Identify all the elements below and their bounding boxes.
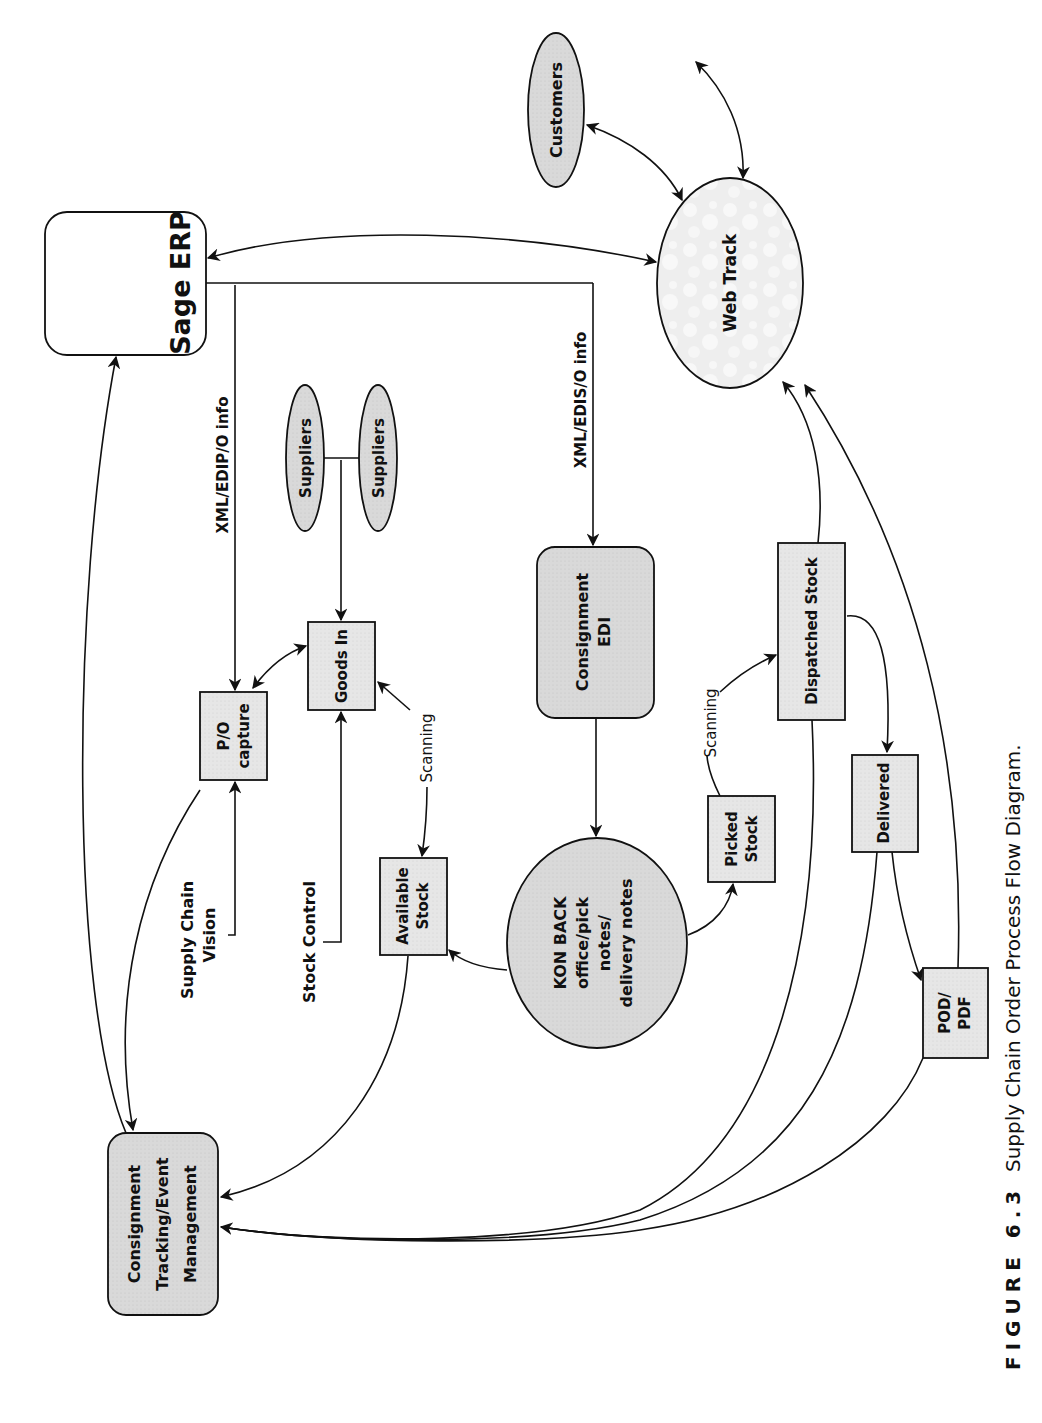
node-picked-stock[interactable]: Picked Stock	[708, 796, 775, 882]
edge-konback-available	[449, 950, 507, 970]
node-web-track[interactable]: Web Track	[657, 178, 803, 388]
edge-webtrack-external	[696, 62, 743, 178]
node-stock-control: Stock Control	[300, 881, 319, 1003]
figure-number: FIGURE 6.3	[1001, 1185, 1025, 1370]
node-suppliers-1[interactable]: Suppliers	[286, 385, 324, 531]
edge-scanning-dispatched	[720, 655, 776, 692]
suppliers-2-label: Suppliers	[370, 418, 388, 498]
edge-label-xml-edis: XML/EDIS/O info	[572, 332, 590, 469]
picked-stock-label-2: Stock	[743, 814, 761, 862]
edge-label-scanning-1: Scanning	[418, 713, 436, 782]
goods-in-label: Goods In	[333, 629, 351, 703]
node-delivered[interactable]: Delivered	[852, 755, 918, 852]
node-kon-back[interactable]: KON BACK office/pick notes/ delivery not…	[507, 838, 687, 1048]
kon-back-label-2: office/pick	[573, 897, 592, 989]
edge-label-scanning-2: Scanning	[702, 688, 720, 757]
web-track-label: Web Track	[720, 233, 740, 332]
dispatched-stock-label: Dispatched Stock	[803, 556, 821, 704]
edge-dispatched-delivered	[847, 616, 888, 752]
node-po-capture[interactable]: P/O capture	[200, 692, 267, 780]
edge-vision-po	[228, 782, 235, 935]
edge-customers-webtrack	[587, 125, 682, 200]
consignment-tracking-label-1: Consignment	[125, 1164, 144, 1283]
supply-chain-vision-label-1: Supply Chain	[178, 881, 197, 999]
figure-title: Supply Chain Order Process Flow Diagram.	[1001, 744, 1025, 1172]
picked-stock-label-1: Picked	[723, 811, 741, 867]
suppliers-1-label: Suppliers	[297, 418, 315, 498]
node-consignment-edi[interactable]: Consignment EDI	[537, 547, 654, 718]
kon-back-label-3: notes/	[595, 915, 614, 971]
consignment-edi-label-1: Consignment	[573, 572, 592, 691]
supply-chain-flow-diagram: Sage ERP Web Track Customers Suppliers S…	[0, 0, 1042, 1423]
node-sage-erp[interactable]: Sage ERP	[45, 211, 206, 355]
edge-label-xml-edip: XML/EDIP/O info	[214, 397, 232, 534]
edge-stockcontrol-goodsin	[323, 712, 341, 942]
available-stock-label-2: Stock	[414, 881, 432, 929]
node-suppliers-2[interactable]: Suppliers	[359, 385, 397, 531]
supply-chain-vision-label-2: Vision	[200, 908, 219, 963]
node-consignment-tracking[interactable]: Consignment Tracking/Event Management	[108, 1133, 218, 1315]
sage-erp-label: Sage ERP	[165, 211, 196, 355]
stock-control-label: Stock Control	[300, 881, 319, 1003]
kon-back-label-1: KON BACK	[551, 896, 570, 990]
node-customers[interactable]: Customers	[528, 33, 584, 187]
edge-picked-scanning	[707, 756, 720, 796]
edge-dispatched-webtrack	[783, 382, 820, 543]
edge-konback-picked	[688, 884, 733, 935]
node-goods-in[interactable]: Goods In	[308, 622, 375, 710]
edge-pod-tracking	[221, 1058, 923, 1241]
kon-back-label-4: delivery notes	[617, 879, 636, 1008]
po-capture-label-2: capture	[235, 703, 253, 768]
edge-webtrack-sage	[208, 235, 656, 262]
po-capture-label-1: P/O	[215, 721, 233, 750]
consignment-edi-label-2: EDI	[595, 617, 614, 647]
node-dispatched-stock[interactable]: Dispatched Stock	[778, 543, 845, 720]
edge-delivered-pod	[892, 852, 921, 980]
consignment-tracking-label-2: Tracking/Event	[153, 1157, 172, 1291]
edge-tracking-sage	[83, 357, 126, 1133]
edge-goodsin-scanning	[378, 682, 410, 710]
consignment-tracking-label-3: Management	[181, 1165, 200, 1283]
pod-pdf-label-2: PDF	[956, 996, 974, 1030]
pod-pdf-label-1: POD/	[936, 992, 954, 1034]
available-stock-label-1: Available	[394, 867, 412, 944]
edge-po-goodsin	[253, 646, 306, 688]
delivered-label: Delivered	[875, 762, 893, 843]
figure-caption: FIGURE 6.3 Supply Chain Order Process Fl…	[1001, 744, 1025, 1370]
customers-label: Customers	[547, 62, 566, 158]
node-pod-pdf[interactable]: POD/ PDF	[923, 968, 988, 1058]
node-supply-chain-vision: Supply Chain Vision	[178, 881, 219, 999]
edge-scanning-available	[422, 787, 427, 856]
node-available-stock[interactable]: Available Stock	[380, 858, 447, 955]
